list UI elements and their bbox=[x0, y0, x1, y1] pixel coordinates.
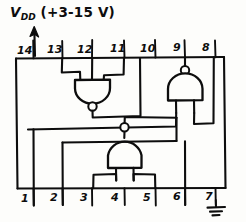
pin-label-12: 12 bbox=[77, 43, 93, 56]
pin-label-7: 7 bbox=[205, 190, 213, 203]
pin-label-5: 5 bbox=[143, 191, 151, 204]
schematic-canvas: 14 13 12 11 10 9 8 1 2 3 4 5 6 7 bbox=[0, 0, 246, 222]
package-top-edge bbox=[16, 57, 224, 59]
pin-label-3: 3 bbox=[80, 191, 88, 204]
package-left-edge bbox=[16, 59, 18, 189]
pin-label-8: 8 bbox=[202, 41, 210, 54]
bottom-pin-leads bbox=[34, 188, 216, 206]
pin-label-2: 2 bbox=[50, 191, 58, 204]
pin-label-10: 10 bbox=[140, 42, 156, 55]
pin-label-1: 1 bbox=[21, 192, 29, 205]
pin-label-14: 14 bbox=[17, 44, 32, 57]
pin-label-13: 13 bbox=[47, 43, 63, 56]
pin-label-9: 9 bbox=[173, 41, 181, 54]
pin-label-11: 11 bbox=[110, 42, 125, 55]
circuit-diagram-sheet: VDD (+3-15 V) 14 13 12 11 1 bbox=[0, 0, 246, 222]
package-right-edge bbox=[224, 57, 226, 188]
inversion-bubble bbox=[120, 123, 128, 131]
pin-label-4: 4 bbox=[110, 191, 119, 204]
pin-label-6: 6 bbox=[173, 190, 181, 203]
inversion-bubble bbox=[88, 102, 96, 110]
gate-top-right bbox=[28, 57, 214, 129]
package-bottom-edge bbox=[18, 188, 226, 189]
gate-top-left bbox=[62, 58, 141, 118]
